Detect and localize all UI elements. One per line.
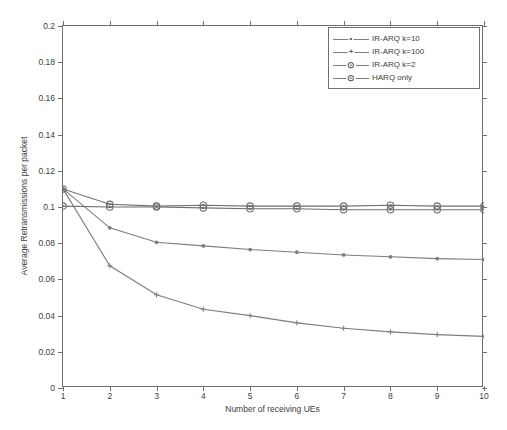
legend-dot-marker: • (349, 35, 354, 43)
legend: •IR-ARQ k=10+IR-ARQ k=100⊙IR-ARQ k=2⊙HAR… (328, 27, 480, 89)
y-axis-tick (58, 135, 63, 136)
legend-sample: + (333, 46, 369, 58)
y-axis-tick (58, 207, 63, 208)
legend-label: IR-ARQ k=100 (369, 47, 424, 56)
dot-marker (389, 255, 393, 259)
x-axis-tick-label: 3 (154, 391, 159, 401)
series-line (63, 189, 484, 260)
plus-marker (341, 326, 346, 331)
series-line (63, 189, 484, 206)
y-axis-tick-label: 0.18 (38, 57, 55, 67)
y-axis-tick-label: 0.16 (38, 93, 55, 103)
y-axis-tick (482, 243, 487, 244)
x-axis-tick-label: 9 (435, 391, 440, 401)
legend-circle-marker: ⊙ (346, 60, 356, 69)
legend-item: ⊙HARQ only (333, 71, 476, 84)
x-axis-tick-label: 8 (388, 391, 393, 401)
legend-label: IR-ARQ k=10 (369, 34, 420, 43)
legend-sample: ⊙ (333, 72, 369, 84)
legend-sample: ⊙ (333, 59, 369, 71)
x-axis-tick (344, 21, 345, 26)
legend-item: •IR-ARQ k=10 (333, 32, 476, 45)
y-axis-tick (482, 62, 487, 63)
x-axis-tick-label: 10 (479, 391, 488, 401)
y-axis-tick (58, 171, 63, 172)
plus-marker (481, 334, 484, 339)
dot-marker (295, 250, 299, 254)
dot-marker (201, 244, 205, 248)
legend-label: HARQ only (369, 73, 412, 82)
y-axis-tick-label: 0.14 (38, 130, 55, 140)
dot-marker (435, 257, 439, 261)
x-axis-tick-label: 5 (248, 391, 253, 401)
y-axis-tick-label: 0.04 (38, 311, 55, 321)
plus-marker (201, 307, 206, 312)
x-axis-tick (297, 21, 298, 26)
y-axis-tick (482, 316, 487, 317)
y-axis-tick (482, 98, 487, 99)
series-1 (63, 187, 484, 261)
y-axis-tick-label: 0.12 (38, 166, 55, 176)
y-axis-tick (58, 279, 63, 280)
y-axis-tick (482, 135, 487, 136)
x-axis-tick (437, 21, 438, 26)
legend-item: +IR-ARQ k=100 (333, 45, 476, 58)
legend-sample: • (333, 33, 369, 45)
x-axis-tick-label: 4 (201, 391, 206, 401)
y-axis-title-label: Average Retransmissions per packet (19, 137, 29, 276)
y-axis-tick (482, 207, 487, 208)
y-axis-tick (58, 62, 63, 63)
y-axis-tick-label: 0 (50, 383, 55, 393)
y-axis-tick-label: 0.1 (43, 202, 55, 212)
x-axis-tick (390, 21, 391, 26)
y-axis-tick-label: 0.2 (43, 21, 55, 31)
y-axis-title: Average Retransmissions per packet (18, 25, 30, 387)
x-axis-tick-label: 2 (107, 391, 112, 401)
dot-marker (108, 226, 112, 230)
plus-marker (435, 332, 440, 337)
series-line (63, 189, 484, 337)
y-axis-tick-label: 0.08 (38, 238, 55, 248)
plus-marker (294, 320, 299, 325)
dot-marker (482, 258, 484, 262)
x-axis-tick (63, 21, 64, 26)
x-axis-tick-label: 1 (61, 391, 66, 401)
plus-marker (388, 329, 393, 334)
x-axis-tick-label: 7 (341, 391, 346, 401)
y-axis-tick (58, 98, 63, 99)
legend-label: IR-ARQ k=2 (369, 60, 415, 69)
y-axis-tick (58, 316, 63, 317)
plus-marker (248, 313, 253, 318)
plus-marker (154, 292, 159, 297)
x-axis-tick (157, 21, 158, 26)
x-axis-tick (484, 21, 485, 26)
y-axis-tick (58, 26, 63, 27)
legend-plus-marker: + (348, 48, 355, 56)
dot-marker (155, 240, 159, 244)
dot-marker (342, 253, 346, 257)
series-3 (63, 186, 484, 210)
y-axis-tick-label: 0.06 (38, 274, 55, 284)
y-axis-tick (482, 171, 487, 172)
figure: Average Retransmissions per packet 00.02… (0, 0, 507, 430)
y-axis-tick (482, 279, 487, 280)
x-axis-tick (110, 21, 111, 26)
y-axis-tick (482, 26, 487, 27)
dot-marker (248, 248, 252, 252)
y-axis-tick (58, 243, 63, 244)
legend-circle-marker: ⊙ (346, 73, 356, 82)
x-axis-title: Number of receiving UEs (62, 404, 483, 414)
y-axis-tick (58, 352, 63, 353)
y-axis-tick-label: 0.02 (38, 347, 55, 357)
y-axis-tick (482, 352, 487, 353)
x-axis-tick-label: 6 (295, 391, 300, 401)
legend-item: ⊙IR-ARQ k=2 (333, 58, 476, 71)
x-axis-tick (250, 21, 251, 26)
plus-marker (107, 263, 112, 268)
x-axis-tick (203, 21, 204, 26)
